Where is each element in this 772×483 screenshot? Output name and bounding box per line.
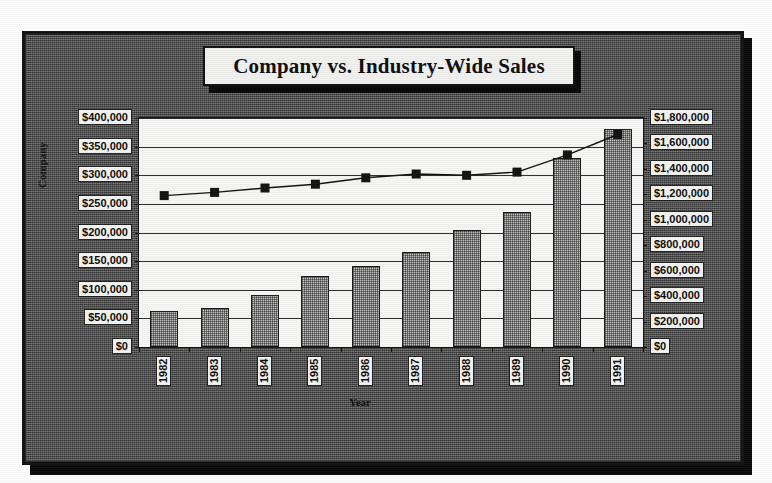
right-axis-tick <box>643 194 647 195</box>
left-axis-label: $50,000 <box>84 309 132 325</box>
x-axis-tick <box>441 347 442 352</box>
right-axis-tick <box>643 296 647 297</box>
line-marker <box>210 188 219 197</box>
left-axis-tick <box>135 318 139 319</box>
x-axis-tick <box>643 347 644 352</box>
left-axis-label: $0 <box>112 338 132 354</box>
right-axis-label: $200,000 <box>650 313 704 329</box>
left-axis-tick <box>135 204 139 205</box>
line-marker <box>361 173 370 182</box>
left-axis-tick <box>135 118 139 119</box>
left-axis-label: $250,000 <box>78 195 132 211</box>
x-axis-title: Year <box>349 396 371 408</box>
y-axis-title: Company <box>36 142 48 188</box>
x-axis-label: 1984 <box>257 356 272 386</box>
right-axis-tick <box>643 245 647 246</box>
line-marker <box>261 184 270 193</box>
line-marker <box>160 191 169 200</box>
line-marker <box>563 150 572 159</box>
x-axis-label: 1987 <box>408 356 423 386</box>
right-axis-label: $600,000 <box>650 262 704 278</box>
x-axis-label: 1989 <box>509 356 524 386</box>
line-marker <box>412 170 421 179</box>
left-axis-label: $200,000 <box>78 224 132 240</box>
right-axis-label: $400,000 <box>650 287 704 303</box>
line-marker <box>462 171 471 180</box>
right-axis-label: $1,000,000 <box>650 211 713 227</box>
x-axis-label: 1983 <box>207 356 222 386</box>
x-axis-label: 1982 <box>156 356 171 386</box>
x-axis-tick <box>492 347 493 352</box>
x-axis-tick <box>542 347 543 352</box>
left-axis-label: $350,000 <box>78 138 132 154</box>
line-marker <box>613 130 622 139</box>
left-axis-label: $400,000 <box>78 109 132 125</box>
chart-title-box: Company vs. Industry-Wide Sales <box>203 46 575 86</box>
x-axis-tick <box>189 347 190 352</box>
right-axis-label: $800,000 <box>650 236 704 252</box>
right-axis-tick <box>643 271 647 272</box>
line-marker <box>513 168 522 177</box>
left-axis-label: $300,000 <box>78 166 132 182</box>
left-axis-tick <box>135 261 139 262</box>
right-axis-tick <box>643 169 647 170</box>
line-series-industry-wide <box>139 118 643 347</box>
scanned-chart-image: Company vs. Industry-Wide Sales $0$50,00… <box>0 0 772 483</box>
right-axis-tick <box>643 322 647 323</box>
left-axis-label: $150,000 <box>78 252 132 268</box>
line-marker <box>311 180 320 189</box>
plot-clip <box>139 118 643 347</box>
left-axis-tick <box>135 175 139 176</box>
x-axis-tick <box>240 347 241 352</box>
x-axis-tick <box>341 347 342 352</box>
left-axis-tick <box>135 290 139 291</box>
x-axis-label: 1990 <box>559 356 574 386</box>
x-axis-label: 1985 <box>307 356 322 386</box>
x-axis-tick <box>391 347 392 352</box>
right-axis-tick <box>643 118 647 119</box>
right-axis-tick <box>643 143 647 144</box>
right-axis-tick <box>643 220 647 221</box>
left-axis-tick <box>135 233 139 234</box>
left-axis-tick <box>135 147 139 148</box>
right-axis-label: $1,800,000 <box>650 109 713 125</box>
x-axis-label: 1991 <box>610 356 625 386</box>
right-axis-label: $1,200,000 <box>650 185 713 201</box>
right-axis-label: $0 <box>650 338 670 354</box>
x-axis-tick <box>290 347 291 352</box>
x-axis-label: 1986 <box>358 356 373 386</box>
chart-title: Company vs. Industry-Wide Sales <box>233 54 545 79</box>
plot-area <box>138 117 644 348</box>
left-axis-label: $100,000 <box>78 281 132 297</box>
x-axis-tick <box>139 347 140 352</box>
x-axis-label: 1988 <box>459 356 474 386</box>
right-axis-label: $1,600,000 <box>650 134 713 150</box>
x-axis-tick <box>593 347 594 352</box>
right-axis-label: $1,400,000 <box>650 160 713 176</box>
